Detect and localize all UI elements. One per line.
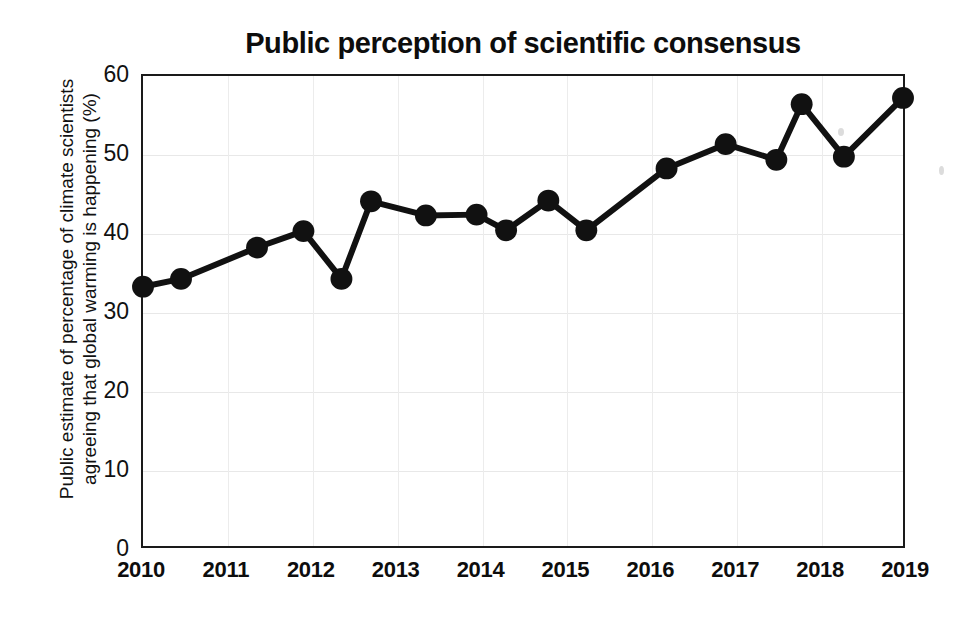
y-axis-tick-label: 50 xyxy=(83,140,129,167)
data-point xyxy=(360,190,382,212)
y-axis-tick-label: 10 xyxy=(83,456,129,483)
data-point xyxy=(466,204,488,226)
data-point xyxy=(715,133,737,155)
data-point xyxy=(656,158,678,180)
data-point xyxy=(892,87,914,109)
plot-inner xyxy=(143,76,903,546)
y-axis-tick-label: 60 xyxy=(83,61,129,88)
data-point xyxy=(791,93,813,115)
y-axis-tick-labels: 0102030405060 xyxy=(79,74,129,548)
y-axis-tick-label: 20 xyxy=(83,377,129,404)
x-axis-tick-label: 2019 xyxy=(850,557,960,583)
line-series xyxy=(143,76,903,546)
data-point xyxy=(495,219,517,241)
y-axis-tick-label: 40 xyxy=(83,219,129,246)
data-point xyxy=(415,205,437,227)
scan-artifact xyxy=(939,166,944,175)
x-axis-tick-labels: 2010201120122013201420152016201720182019 xyxy=(141,557,905,591)
data-point xyxy=(170,268,192,290)
data-point xyxy=(132,276,154,298)
data-point xyxy=(537,190,559,212)
scan-artifact xyxy=(838,128,844,136)
data-point xyxy=(246,237,268,259)
data-point xyxy=(293,220,315,242)
plot-area xyxy=(141,74,905,548)
data-point xyxy=(575,219,597,241)
data-point xyxy=(833,146,855,168)
data-point xyxy=(765,149,787,171)
chart-figure: Public perception of scientific consensu… xyxy=(0,0,964,623)
chart-title: Public perception of scientific consensu… xyxy=(141,27,905,60)
y-axis-tick-label: 30 xyxy=(83,298,129,325)
data-point xyxy=(331,268,353,290)
